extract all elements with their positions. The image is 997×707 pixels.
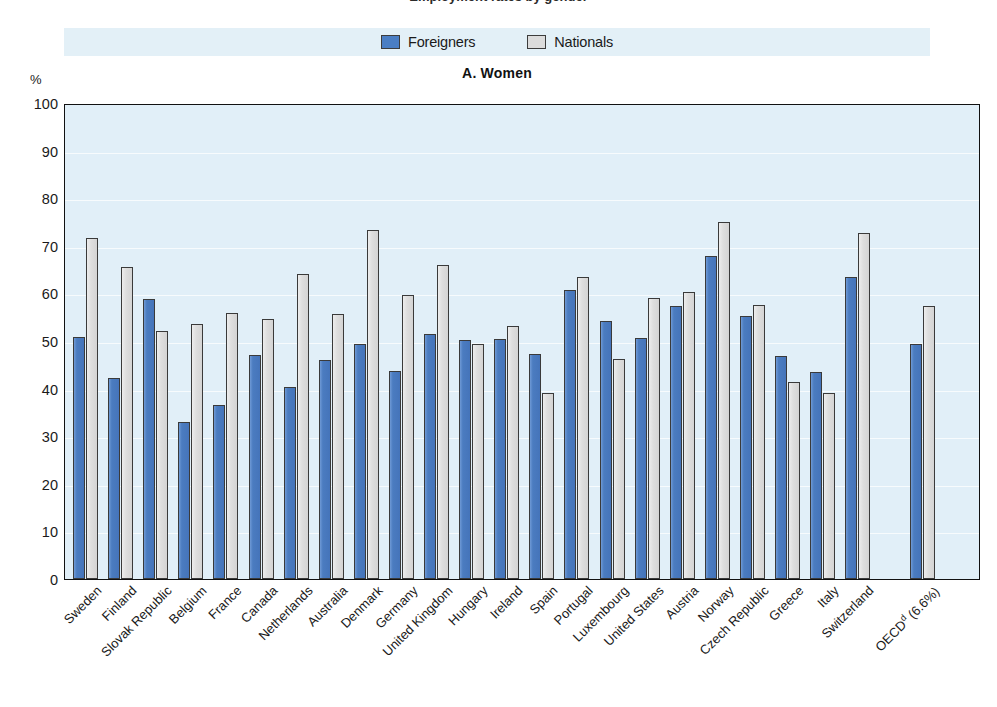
y-axis-tick-label: 50 xyxy=(12,335,58,350)
y-axis-unit-label: % xyxy=(30,72,42,87)
bar-group xyxy=(284,105,310,579)
plot-area xyxy=(64,104,980,580)
y-axis-tick-label: 30 xyxy=(12,430,58,445)
bar-group xyxy=(494,105,520,579)
y-axis-tick-label: 40 xyxy=(12,382,58,397)
bar-nationals xyxy=(367,230,379,579)
bar-nationals xyxy=(437,265,449,579)
bar-group xyxy=(635,105,661,579)
x-axis-labels: SwedenFinlandSlovak RepublicBelgiumFranc… xyxy=(64,583,980,707)
bar-nationals xyxy=(226,313,238,579)
bar-nationals xyxy=(402,295,414,579)
bar-foreigners xyxy=(705,256,717,579)
bar-foreigners xyxy=(249,355,261,579)
y-axis-tick-label: 70 xyxy=(12,240,58,255)
bar-foreigners xyxy=(389,371,401,579)
bar-foreigners xyxy=(494,339,506,579)
legend-swatch-foreigners-icon xyxy=(381,35,400,49)
y-axis-tick-label: 10 xyxy=(12,525,58,540)
bar-group xyxy=(73,105,99,579)
legend-label-foreigners: Foreigners xyxy=(408,34,475,50)
bar-group xyxy=(143,105,169,579)
bar-foreigners xyxy=(143,299,155,579)
y-axis-tick-label: 0 xyxy=(12,573,58,588)
bar-nationals xyxy=(613,359,625,579)
y-axis-tick-label: 60 xyxy=(12,287,58,302)
bar-foreigners xyxy=(810,372,822,579)
figure-title-clipped: Employment rates by gender xyxy=(0,0,997,7)
bar-group xyxy=(178,105,204,579)
bar-foreigners xyxy=(424,334,436,579)
bar-nationals xyxy=(86,238,98,579)
bar-group xyxy=(740,105,766,579)
bar-foreigners xyxy=(529,354,541,579)
bar-nationals xyxy=(683,292,695,579)
bar-foreigners xyxy=(354,344,366,579)
bar-foreigners xyxy=(459,340,471,579)
bar-group xyxy=(529,105,555,579)
bar-nationals xyxy=(753,305,765,579)
bar-nationals xyxy=(507,326,519,579)
bar-group xyxy=(564,105,590,579)
bar-group xyxy=(389,105,415,579)
bar-nationals xyxy=(718,222,730,579)
x-axis-category-label: Italy xyxy=(814,583,841,610)
bar-group xyxy=(810,105,836,579)
bar-group xyxy=(600,105,626,579)
figure-title-text: Employment rates by gender xyxy=(0,0,997,4)
y-axis-tick-label: 90 xyxy=(12,144,58,159)
y-axis: 0102030405060708090100 xyxy=(8,104,58,580)
legend-swatch-nationals-icon xyxy=(527,35,546,49)
bar-foreigners xyxy=(319,360,331,579)
bar-nationals xyxy=(858,233,870,579)
bar-group xyxy=(459,105,485,579)
x-axis-category-label: Sweden xyxy=(61,583,105,627)
bar-nationals xyxy=(788,382,800,579)
bar-foreigners xyxy=(600,321,612,579)
chart-legend: Foreigners Nationals xyxy=(64,28,930,56)
legend-item-foreigners: Foreigners xyxy=(381,34,475,50)
bar-nationals xyxy=(923,306,935,579)
bar-group xyxy=(424,105,450,579)
x-axis-category-label: Greece xyxy=(766,583,807,624)
y-axis-tick-label: 80 xyxy=(12,192,58,207)
bar-group xyxy=(670,105,696,579)
bar-nationals xyxy=(542,393,554,579)
bar-group xyxy=(249,105,275,579)
bar-foreigners xyxy=(213,405,225,579)
bar-group xyxy=(775,105,801,579)
bar-group xyxy=(845,105,871,579)
bar-foreigners xyxy=(670,306,682,579)
bar-nationals xyxy=(823,393,835,579)
x-axis-category-label: OECDd (6.6%) xyxy=(872,583,943,654)
bar-foreigners xyxy=(775,356,787,579)
x-axis-category-label: Austria xyxy=(662,583,701,622)
bar-group xyxy=(319,105,345,579)
bar-nationals xyxy=(577,277,589,579)
bar-foreigners xyxy=(108,378,120,579)
legend-item-nationals: Nationals xyxy=(527,34,613,50)
bar-foreigners xyxy=(635,338,647,579)
y-axis-tick-label: 100 xyxy=(12,97,58,112)
y-axis-tick-label: 20 xyxy=(12,478,58,493)
bar-nationals xyxy=(156,331,168,579)
x-axis-category-label: Belgium xyxy=(166,583,210,627)
bar-series-container xyxy=(65,105,979,579)
bar-foreigners xyxy=(178,422,190,579)
bar-nationals xyxy=(297,274,309,579)
bar-nationals xyxy=(262,319,274,579)
bar-group xyxy=(910,105,936,579)
bar-nationals xyxy=(648,298,660,579)
x-axis-category-label: Ireland xyxy=(487,583,526,622)
bar-foreigners xyxy=(284,387,296,579)
bar-foreigners xyxy=(740,316,752,579)
bar-foreigners xyxy=(73,337,85,579)
bar-nationals xyxy=(332,314,344,579)
bar-group xyxy=(108,105,134,579)
bar-nationals xyxy=(121,267,133,579)
bar-group xyxy=(705,105,731,579)
panel-title: A. Women xyxy=(64,65,930,81)
bar-group xyxy=(354,105,380,579)
legend-label-nationals: Nationals xyxy=(554,34,613,50)
bar-foreigners xyxy=(845,277,857,579)
